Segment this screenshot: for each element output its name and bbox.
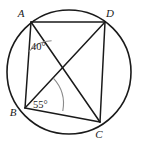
vertex-label-B: B	[10, 106, 17, 118]
side-AB	[25, 22, 31, 108]
geometry-figure: A D B C 40° 55°	[0, 0, 141, 143]
geometry-canvas: A D B C 40° 55°	[0, 0, 141, 143]
diagonal-BD	[25, 22, 105, 108]
vertex-label-C: C	[95, 128, 103, 140]
circumscribed-circle	[7, 10, 131, 134]
angle-label-55: 55°	[33, 99, 48, 110]
angle-arc-at-B	[53, 78, 63, 111]
side-DC	[100, 22, 105, 122]
vertex-label-A: A	[17, 7, 25, 19]
vertex-label-D: D	[105, 7, 114, 19]
angle-label-40: 40°	[31, 41, 46, 52]
